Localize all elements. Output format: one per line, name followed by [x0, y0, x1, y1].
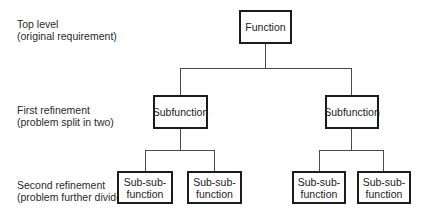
sub-subfunction-label-line2: function: [193, 188, 236, 200]
connector-left-sub-down: [180, 68, 181, 95]
connector-left-horizontal: [145, 150, 215, 151]
sub-subfunction-box-3: Sub-sub- function: [292, 171, 346, 204]
connector-left-child1: [145, 150, 146, 171]
connector-root-horizontal: [180, 68, 352, 69]
level-subtitle: (original requirement): [17, 30, 117, 42]
level-title: Top level: [17, 18, 117, 30]
sub-subfunction-label-line1: Sub-sub-: [298, 176, 341, 188]
subfunction-box-right: Subfunction: [325, 95, 379, 129]
level-subtitle: (problem further divided): [17, 191, 131, 203]
sub-subfunction-box-1: Sub-sub- function: [117, 171, 173, 204]
sub-subfunction-label-line2: function: [363, 188, 406, 200]
subfunction-box-left: Subfunction: [153, 95, 208, 129]
connector-left-sub-stem: [180, 128, 181, 150]
connector-right-child1: [319, 150, 320, 171]
connector-root-down: [265, 43, 266, 69]
subfunction-label: Subfunction: [324, 106, 379, 118]
level-label-first: First refinement (problem split in two): [17, 104, 114, 128]
sub-subfunction-box-2: Sub-sub- function: [187, 171, 242, 204]
function-label: Function: [245, 21, 285, 33]
connector-left-child2: [214, 150, 215, 171]
sub-subfunction-label-line1: Sub-sub-: [363, 176, 406, 188]
subfunction-label: Subfunction: [153, 106, 208, 118]
function-box: Function: [239, 10, 292, 44]
sub-subfunction-label-line1: Sub-sub-: [193, 176, 236, 188]
connector-right-horizontal: [319, 150, 384, 151]
sub-subfunction-label-line1: Sub-sub-: [124, 176, 167, 188]
connector-right-sub-down: [351, 68, 352, 95]
level-label-second: Second refinement (problem further divid…: [17, 179, 131, 203]
sub-subfunction-label-line2: function: [124, 188, 167, 200]
sub-subfunction-label-line2: function: [298, 188, 341, 200]
connector-right-child2: [383, 150, 384, 171]
level-title: First refinement: [17, 104, 114, 116]
sub-subfunction-box-4: Sub-sub- function: [357, 171, 411, 204]
level-label-top: Top level (original requirement): [17, 18, 117, 42]
level-subtitle: (problem split in two): [17, 116, 114, 128]
connector-right-sub-stem: [351, 128, 352, 150]
level-title: Second refinement: [17, 179, 131, 191]
